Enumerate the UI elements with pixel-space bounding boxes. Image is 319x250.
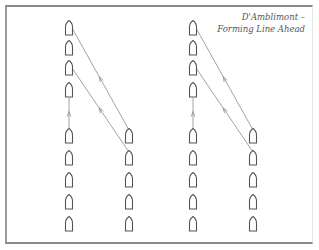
ship-icon bbox=[190, 41, 197, 56]
ship-icon bbox=[250, 173, 257, 188]
diagram-caption: D'Amblimont – Forming Line Ahead bbox=[205, 11, 305, 35]
ship-icon bbox=[190, 129, 197, 144]
ship-icon bbox=[66, 195, 73, 210]
ship-icon bbox=[250, 217, 257, 232]
ship-icon bbox=[190, 61, 197, 76]
caption-title: D'Amblimont – bbox=[205, 11, 305, 23]
ship-icon bbox=[190, 217, 197, 232]
track-line bbox=[72, 68, 129, 152]
ship-icon bbox=[190, 173, 197, 188]
track-line bbox=[72, 28, 129, 130]
ship-icon bbox=[126, 151, 133, 166]
ship-icon bbox=[66, 173, 73, 188]
fleet-diagram bbox=[0, 0, 319, 250]
arrow-icon bbox=[223, 77, 227, 82]
ship-icon bbox=[66, 83, 73, 98]
caption-subtitle: Forming Line Ahead bbox=[205, 23, 305, 35]
ship-icon bbox=[190, 195, 197, 210]
track-line bbox=[196, 68, 253, 152]
track-line bbox=[196, 28, 253, 130]
ship-icon bbox=[190, 151, 197, 166]
arrow-icon bbox=[99, 77, 103, 82]
ship-icon bbox=[250, 195, 257, 210]
ship-icon bbox=[66, 129, 73, 144]
ship-tracks bbox=[67, 28, 253, 152]
ship-icon bbox=[126, 195, 133, 210]
ship-icon bbox=[66, 151, 73, 166]
ship-icon bbox=[66, 41, 73, 56]
ship-icon bbox=[250, 151, 257, 166]
ship-icon bbox=[126, 129, 133, 144]
ship-icon bbox=[66, 61, 73, 76]
ship-icon bbox=[250, 129, 257, 144]
ship-icon bbox=[126, 173, 133, 188]
ship-icon bbox=[66, 217, 73, 232]
ship-icon bbox=[66, 21, 73, 36]
ship-icon bbox=[190, 83, 197, 98]
ship-icon bbox=[190, 21, 197, 36]
ship-icon bbox=[126, 217, 133, 232]
ships bbox=[66, 21, 257, 232]
